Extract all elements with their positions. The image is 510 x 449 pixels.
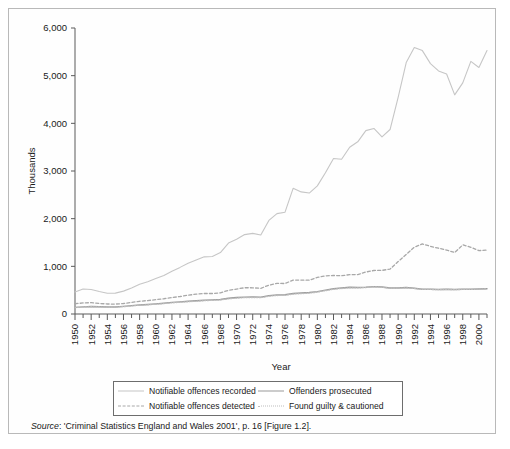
x-axis-tick-label: 1994 [425, 324, 436, 345]
legend-item-offenders-prosecuted[interactable]: Offenders prosecuted [258, 386, 398, 396]
y-axis-tick-label: 0 [62, 308, 67, 319]
y-axis-tick-label: 6,000 [43, 22, 67, 33]
x-axis-tick-label: 1980 [312, 324, 323, 345]
x-axis-tick-label: 2000 [473, 324, 484, 345]
legend-swatch-line-icon [258, 388, 284, 395]
x-axis-tick-label: 1962 [166, 324, 177, 345]
legend-label: Offenders prosecuted [289, 386, 372, 396]
legend-label: Found guilty & cautioned [289, 401, 384, 411]
x-axis-tick-label: 1964 [182, 324, 193, 345]
line-chart: 01,0002,0003,0004,0005,0006,000195019521… [9, 9, 495, 371]
legend-swatch-line-icon [258, 402, 284, 409]
x-axis-tick-label: 1982 [328, 324, 339, 345]
x-axis-tick-label: 1996 [441, 324, 452, 345]
source-label: Source [31, 421, 59, 431]
source-note: Source: 'Criminal Statistics England and… [31, 421, 311, 431]
y-axis-tick-label: 2,000 [43, 213, 67, 224]
y-axis-tick-label: 4,000 [43, 118, 67, 129]
x-axis-tick-label: 1974 [263, 324, 274, 345]
legend-label: Notifiable offences detected [149, 401, 255, 411]
x-axis-tick-label: 1950 [69, 324, 80, 345]
x-axis-tick-label: 1952 [86, 324, 97, 345]
x-axis-tick-label: 1966 [199, 324, 210, 345]
x-axis-tick-label: 1956 [118, 324, 129, 345]
series-line-found-guilty-cautioned [75, 287, 487, 308]
y-axis-title: Thousands [26, 147, 37, 194]
x-axis-tick-label: 1970 [231, 324, 242, 345]
figure-container: 01,0002,0003,0004,0005,0006,000195019521… [8, 8, 496, 434]
series-line-notifiable-offences-recorded [75, 47, 487, 293]
x-axis-tick-label: 1954 [102, 324, 113, 345]
x-axis-tick-label: 1958 [134, 324, 145, 345]
legend-swatch-line-icon [118, 388, 144, 395]
chart-plot-area: 01,0002,0003,0004,0005,0006,000195019521… [9, 9, 495, 371]
x-axis-tick-label: 1998 [457, 324, 468, 345]
x-axis-tick-label: 1988 [376, 324, 387, 345]
x-axis-tick-label: 1990 [393, 324, 404, 345]
x-axis-tick-label: 1986 [360, 324, 371, 345]
x-axis-tick-label: 1968 [215, 324, 226, 345]
chart-legend: Notifiable offences recorded Offenders p… [113, 381, 403, 416]
y-axis-tick-label: 1,000 [43, 261, 67, 272]
legend-item-found-guilty-cautioned[interactable]: Found guilty & cautioned [258, 401, 398, 411]
x-axis-tick-label: 1960 [150, 324, 161, 345]
source-text: : 'Criminal Statistics England and Wales… [59, 421, 311, 431]
legend-item-notifiable-offences-recorded[interactable]: Notifiable offences recorded [118, 386, 258, 396]
x-axis-tick-label: 1984 [344, 324, 355, 345]
y-axis-tick-label: 3,000 [43, 165, 67, 176]
x-axis-tick-label: 1972 [247, 324, 258, 345]
x-axis-tick-label: 1992 [409, 324, 420, 345]
legend-label: Notifiable offences recorded [149, 386, 256, 396]
y-axis-tick-label: 5,000 [43, 70, 67, 81]
x-axis-title: Year [271, 361, 290, 371]
legend-item-notifiable-offences-detected[interactable]: Notifiable offences detected [118, 401, 258, 411]
legend-swatch-line-icon [118, 402, 144, 409]
x-axis-tick-label: 1978 [296, 324, 307, 345]
x-axis-tick-label: 1976 [279, 324, 290, 345]
